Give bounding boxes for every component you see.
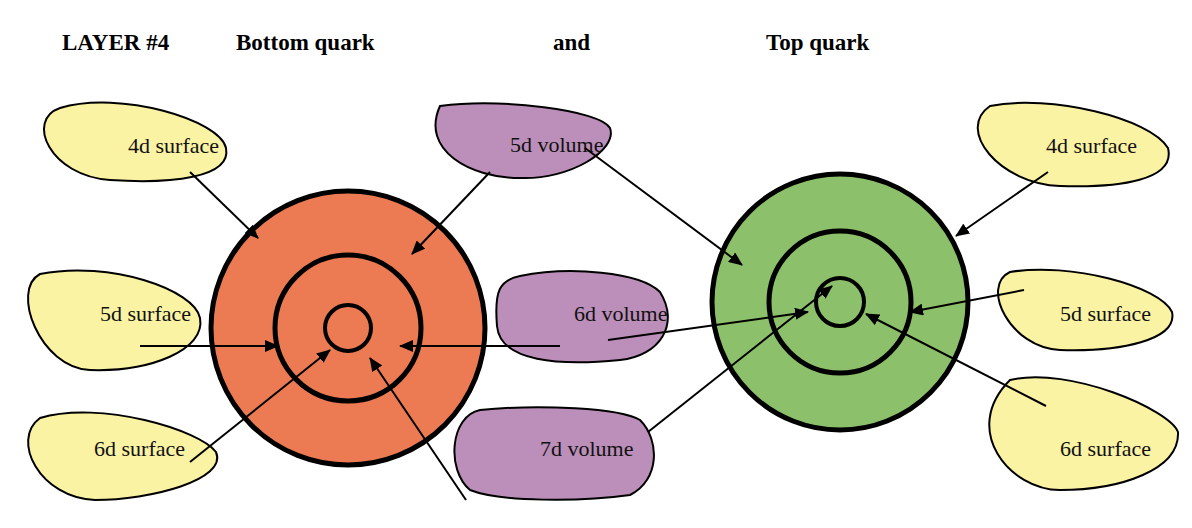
left-6d-surface-blob: 6d surface [28, 412, 217, 500]
top-quark-target [712, 174, 968, 430]
6d-volume-label: 6d volume [574, 301, 668, 326]
surface-shape [989, 377, 1178, 490]
7d-volume-label: 7d volume [540, 436, 634, 461]
5d-volume-blob: 5d volume [435, 103, 610, 178]
left-5d-surface-blob: 5d surface [28, 270, 200, 370]
7d-volume-blob: 7d volume [454, 407, 654, 500]
quark-diagram: 4d surface5d surface6d surface5d volume6… [0, 0, 1192, 528]
right-4d-surface-blob: 4d surface [978, 103, 1169, 186]
arrow-line [956, 172, 1048, 236]
left-5d-surface-label: 5d surface [100, 301, 191, 326]
right-6d-surface-blob: 6d surface [989, 377, 1178, 490]
right-4d-surface-label: 4d surface [1046, 133, 1137, 158]
5d-volume-label: 5d volume [510, 132, 604, 157]
top-quark-ring-1 [712, 174, 968, 430]
right-5d-surface-blob: 5d surface [998, 270, 1172, 351]
arrow-line [190, 172, 258, 238]
left-6d-surface-label: 6d surface [94, 436, 185, 461]
left-4d-surface-label: 4d surface [128, 133, 219, 158]
left-4d-surface-blob: 4d surface [44, 103, 226, 182]
right-5d-surface-label: 5d surface [1060, 301, 1151, 326]
6d-volume-blob: 6d volume [496, 271, 668, 362]
right-6d-surface-label: 6d surface [1060, 436, 1151, 461]
arrow-line [585, 148, 742, 265]
